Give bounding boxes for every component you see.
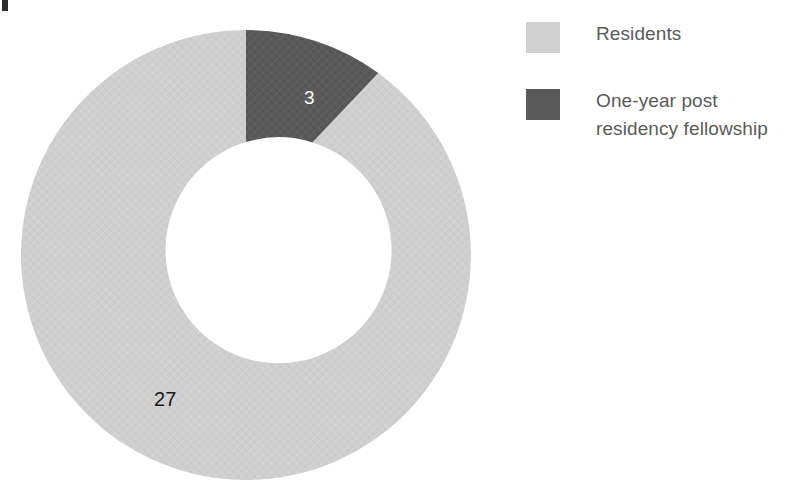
chart-legend: Residents One-year post residency fellow… [526, 20, 791, 176]
slice-value-label-residents: 27 [154, 389, 177, 409]
legend-item-fellowship[interactable]: One-year post residency fellowship [526, 87, 791, 142]
donut-chart-svg [0, 0, 500, 503]
donut-chart: 27 3 [0, 0, 500, 503]
legend-item-residents[interactable]: Residents [526, 20, 791, 53]
donut-slice-residents[interactable] [21, 30, 471, 480]
slice-value-label-fellowship: 3 [304, 88, 315, 107]
legend-swatch-residents [526, 22, 560, 53]
legend-label-fellowship: One-year post residency fellowship [596, 87, 791, 142]
legend-swatch-fellowship [526, 89, 560, 120]
legend-label-residents: Residents [596, 20, 681, 48]
